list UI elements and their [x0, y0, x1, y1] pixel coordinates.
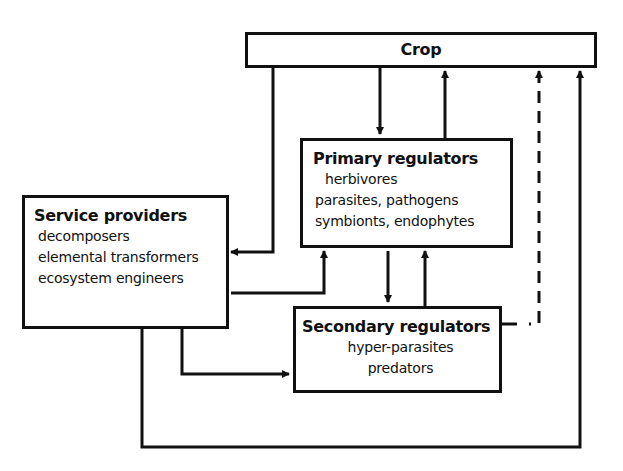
- service-providers-item: elemental transformers: [34, 247, 226, 268]
- service-providers-item: decomposers: [34, 226, 226, 247]
- secondary-regulators-title: Secondary regulators: [302, 317, 499, 337]
- service-providers-title: Service providers: [34, 206, 226, 226]
- edge-service-to-primary: [231, 251, 324, 293]
- edge-service-to-secondary: [182, 329, 289, 374]
- primary-regulators-node: Primary regulators herbivores parasites,…: [300, 138, 513, 248]
- secondary-regulators-item: predators: [302, 358, 499, 379]
- service-providers-node: Service providers decomposers elemental …: [22, 195, 229, 329]
- primary-regulators-title: Primary regulators: [313, 149, 510, 169]
- service-providers-item: ecosystem engineers: [34, 268, 226, 289]
- primary-regulators-item: herbivores: [313, 169, 510, 190]
- primary-regulators-item: symbionts, endophytes: [313, 211, 510, 232]
- secondary-regulators-node: Secondary regulators hyper-parasites pre…: [293, 306, 502, 393]
- crop-title: Crop: [248, 35, 594, 65]
- crop-node: Crop: [245, 32, 597, 68]
- primary-regulators-item: parasites, pathogens: [313, 190, 510, 211]
- secondary-regulators-item: hyper-parasites: [302, 337, 499, 358]
- edge-crop-to-service: [231, 67, 273, 252]
